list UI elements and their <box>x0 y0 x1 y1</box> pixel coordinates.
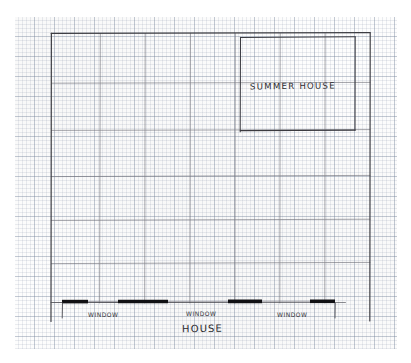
floor-plan-drawing <box>0 0 411 363</box>
summer-house-label: SUMMER HOUSE <box>250 81 336 92</box>
window-label-3: WINDOW <box>277 311 308 318</box>
house-label: HOUSE <box>182 323 223 335</box>
screenshot-root: SUMMER HOUSE WINDOW WINDOW WINDOW HOUSE <box>0 0 411 363</box>
house-outline <box>51 33 370 322</box>
house-interior-grid <box>52 34 371 304</box>
window-label-2: WINDOW <box>186 310 217 317</box>
window-label-1: WINDOW <box>88 311 119 318</box>
